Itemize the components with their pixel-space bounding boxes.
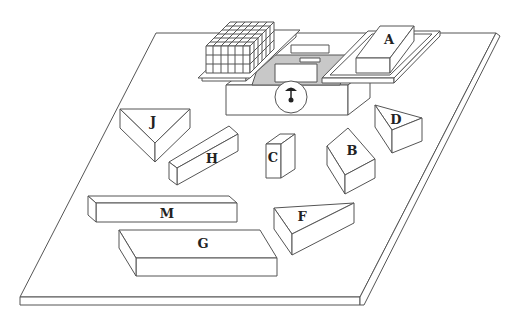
label-h: J — [149, 114, 156, 129]
label-c: C — [268, 150, 278, 165]
label-a: A — [383, 32, 395, 47]
needle-dial-icon — [275, 81, 307, 113]
puzzle-diagram: A J H C B D M — [0, 0, 513, 311]
label-d: D — [390, 112, 401, 127]
block-m: G — [119, 230, 277, 276]
block-c: C — [266, 134, 295, 178]
label-g: H — [206, 151, 218, 166]
label-f: F — [297, 209, 307, 224]
label-b: B — [347, 143, 358, 158]
label-j: M — [160, 206, 174, 221]
label-m: G — [197, 236, 208, 251]
block-j: M — [88, 196, 237, 222]
